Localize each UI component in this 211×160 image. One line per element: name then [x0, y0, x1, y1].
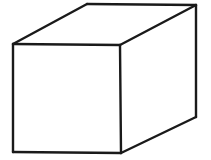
front-bottom-edge — [13, 152, 121, 153]
front-top-edge — [13, 44, 120, 45]
cuboid-face-front — [13, 44, 121, 153]
figure-canvas — [0, 0, 211, 160]
front-right-edge — [120, 45, 121, 153]
back-top-edge — [87, 4, 196, 5]
cuboid-drawing — [0, 0, 211, 160]
